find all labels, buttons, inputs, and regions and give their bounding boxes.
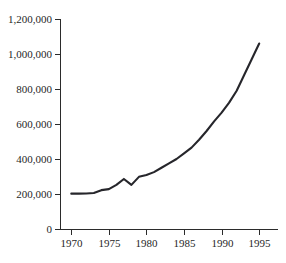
x-tick-label: 1975 xyxy=(99,237,122,249)
y-tick-label: 600,000 xyxy=(16,118,52,130)
y-tick-label: 1,000,000 xyxy=(8,48,53,60)
y-tick-label: 0 xyxy=(47,223,53,235)
x-tick-label: 1985 xyxy=(174,237,197,249)
y-axis-tick-labels: 0200,000400,000600,000800,0001,000,0001,… xyxy=(8,13,53,235)
x-axis: 197019751980198519901995 xyxy=(61,230,279,250)
y-tick-label: 1,200,000 xyxy=(8,13,53,25)
y-axis: 0200,000400,000600,000800,0001,000,0001,… xyxy=(8,13,61,235)
line-chart-figure: 0200,000400,000600,000800,0001,000,0001,… xyxy=(0,0,286,263)
x-tick-label: 1980 xyxy=(136,237,159,249)
x-axis-tick-labels: 197019751980198519901995 xyxy=(61,237,272,249)
x-tick-label: 1995 xyxy=(249,237,272,249)
y-tick-label: 400,000 xyxy=(16,153,52,165)
x-tick-label: 1970 xyxy=(61,237,84,249)
y-tick-label: 200,000 xyxy=(16,188,52,200)
data-line-series-1 xyxy=(71,44,259,194)
x-tick-label: 1990 xyxy=(212,237,235,249)
plot-area xyxy=(71,44,259,194)
chart-canvas: 0200,000400,000600,000800,0001,000,0001,… xyxy=(0,0,286,263)
y-axis-tick-marks xyxy=(55,20,61,230)
x-axis-tick-marks xyxy=(72,230,260,236)
y-tick-label: 800,000 xyxy=(16,83,52,95)
